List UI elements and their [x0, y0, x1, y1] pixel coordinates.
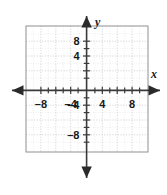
- x-axis-left-arrow-icon: [12, 85, 24, 95]
- y-tick-label-pos4: 4: [73, 50, 80, 62]
- coordinate-plane-canvas: –8 –4 4 8 8 4 –4 –8 x y: [0, 0, 167, 195]
- y-axis-label: y: [93, 15, 101, 29]
- x-tick-label-pos4: 4: [99, 98, 106, 110]
- y-tick-label-neg8: –8: [67, 129, 79, 141]
- y-axis-down-arrow-icon: [81, 167, 91, 179]
- x-tick-label-neg8: –8: [35, 98, 47, 110]
- y-tick-label-neg4: –4: [67, 99, 80, 111]
- y-axis-up-arrow-icon: [81, 16, 91, 28]
- x-axis-label: x: [150, 67, 157, 81]
- x-tick-label-pos8: 8: [129, 98, 135, 110]
- y-tick-label-pos8: 8: [73, 35, 79, 47]
- coordinate-plane-figure: –8 –4 4 8 8 4 –4 –8 x y: [0, 0, 167, 195]
- x-axis-right-arrow-icon: [149, 85, 161, 95]
